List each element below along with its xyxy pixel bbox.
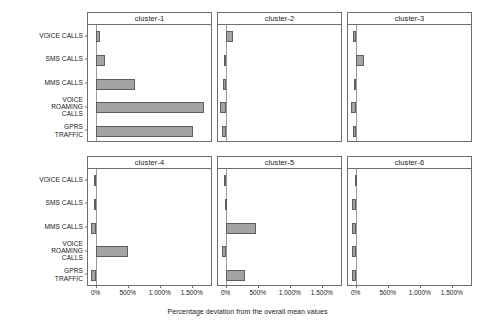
bar [94, 199, 96, 210]
bar [96, 79, 135, 90]
x-axis-tick-label: 1.500% [311, 289, 333, 296]
axis-spacer [0, 142, 87, 156]
bar [224, 55, 226, 66]
axis-spacer [217, 142, 342, 156]
x-axis-tick-label: 1.000% [409, 289, 431, 296]
panel-title-cluster-4: cluster-4 [135, 158, 165, 167]
bar [96, 31, 100, 42]
y-label-sms-calls: SMS CALLS [46, 56, 83, 63]
bar [225, 199, 227, 210]
panel-title-cluster-5: cluster-5 [265, 158, 295, 167]
x-axis-tick [160, 286, 161, 288]
x-axis-tick-label: 1.000% [149, 289, 171, 296]
bar [352, 270, 356, 281]
x-axis-cluster-5: 0%500%1.000%1.500% [217, 286, 342, 300]
x-axis-tick [322, 286, 323, 288]
panel-strip-cluster-6: cluster-6 [347, 156, 472, 168]
panel-strip-cluster-3: cluster-3 [347, 12, 472, 24]
panel-cluster-3 [347, 24, 472, 142]
bar [226, 270, 245, 281]
panel-cluster-5 [217, 168, 342, 286]
zero-reference-line [356, 25, 357, 141]
y-label-voice-roaming-calls: VOICE ROAMING CALLS [51, 95, 83, 117]
zero-reference-line [226, 25, 227, 141]
bar [222, 126, 225, 137]
x-axis-tick [452, 286, 453, 288]
grid-corner-spacer [0, 12, 87, 24]
chart-caption: Percentage deviation from the overall me… [0, 308, 495, 315]
bar [96, 102, 204, 113]
y-label-gprs-traffic: GPRS TRAFFIC [55, 267, 83, 282]
bar [222, 246, 226, 257]
x-axis-tick [388, 286, 389, 288]
zero-reference-line [356, 169, 357, 285]
axis-spacer [0, 286, 87, 300]
y-label-voice-calls: VOICE CALLS [39, 176, 83, 183]
x-axis-tick [258, 286, 259, 288]
x-axis-tick [226, 286, 227, 288]
y-axis-labels-row-1: VOICE CALLS SMS CALLS MMS CALLS VOICE RO… [0, 24, 87, 142]
panel-strip-cluster-4: cluster-4 [87, 156, 212, 168]
bar [226, 31, 234, 42]
x-axis-tick-label: 500% [119, 289, 136, 296]
y-label-sms-calls: SMS CALLS [46, 200, 83, 207]
axis-spacer [87, 142, 212, 156]
grid-corner-spacer [0, 156, 87, 168]
x-axis-tick-label: 0% [351, 289, 360, 296]
bar [223, 79, 226, 90]
bar [96, 55, 105, 66]
panel-title-cluster-2: cluster-2 [265, 14, 295, 23]
x-axis-cluster-6: 0%500%1.000%1.500% [347, 286, 472, 300]
x-axis-tick [128, 286, 129, 288]
bar [220, 102, 226, 113]
bar [351, 102, 355, 113]
x-axis-tick-label: 0% [221, 289, 230, 296]
x-axis-cluster-4: 0%500%1.000%1.500% [87, 286, 212, 300]
x-axis-tick-label: 1.500% [181, 289, 203, 296]
bar [356, 55, 364, 66]
panel-title-cluster-1: cluster-1 [135, 14, 165, 23]
bar [224, 175, 226, 186]
panel-strip-cluster-1: cluster-1 [87, 12, 212, 24]
y-label-voice-roaming-calls: VOICE ROAMING CALLS [51, 239, 83, 261]
y-label-voice-calls: VOICE CALLS [39, 32, 83, 39]
bar [355, 175, 357, 186]
panel-title-cluster-6: cluster-6 [395, 158, 425, 167]
bar [353, 31, 355, 42]
panel-title-cluster-3: cluster-3 [395, 14, 425, 23]
x-axis-tick-label: 1.000% [279, 289, 301, 296]
bar [96, 246, 128, 257]
bar [352, 223, 356, 234]
axis-spacer [347, 142, 472, 156]
bar [353, 126, 356, 137]
panel-cluster-4 [87, 168, 212, 286]
x-axis-tick-label: 500% [249, 289, 266, 296]
bar [352, 246, 356, 257]
bar [354, 79, 356, 90]
y-label-mms-calls: MMS CALLS [44, 79, 83, 86]
x-axis-tick [420, 286, 421, 288]
bar [96, 126, 193, 137]
x-axis-tick [96, 286, 97, 288]
panel-strip-cluster-2: cluster-2 [217, 12, 342, 24]
facet-grid: cluster-1 cluster-2 cluster-3 VOICE CALL… [0, 12, 495, 300]
bar [94, 175, 96, 186]
x-axis-tick-label: 1.500% [441, 289, 463, 296]
zero-reference-line [96, 169, 97, 285]
bar [91, 270, 95, 281]
y-axis-labels-row-2: VOICE CALLS SMS CALLS MMS CALLS VOICE RO… [0, 168, 87, 286]
x-axis-tick [192, 286, 193, 288]
x-axis-tick-label: 0% [91, 289, 100, 296]
x-axis-tick [356, 286, 357, 288]
y-label-gprs-traffic: GPRS TRAFFIC [55, 123, 83, 138]
panel-strip-cluster-5: cluster-5 [217, 156, 342, 168]
bar [226, 223, 256, 234]
panel-cluster-2 [217, 24, 342, 142]
chart-figure: cluster-1 cluster-2 cluster-3 VOICE CALL… [0, 0, 495, 328]
panel-cluster-6 [347, 168, 472, 286]
x-axis-tick [290, 286, 291, 288]
bar [352, 199, 355, 210]
bar [91, 223, 96, 234]
panel-cluster-1 [87, 24, 212, 142]
y-label-mms-calls: MMS CALLS [44, 223, 83, 230]
